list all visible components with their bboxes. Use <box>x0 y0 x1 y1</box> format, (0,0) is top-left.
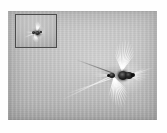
specimen-inset <box>16 15 57 48</box>
inset-panel <box>15 14 57 48</box>
inset-eye <box>40 31 42 33</box>
inset-head <box>32 31 35 34</box>
figure-root <box>0 0 167 133</box>
